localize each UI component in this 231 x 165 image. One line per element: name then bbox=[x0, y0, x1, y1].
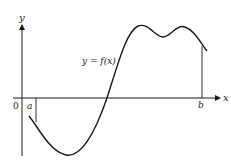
b-label: b bbox=[198, 100, 204, 110]
function-graph: y x 0 a b y = f(x) bbox=[0, 0, 231, 165]
x-axis-label: x bbox=[223, 92, 229, 103]
curve-label: y = f(x) bbox=[81, 56, 116, 66]
y-axis-label: y bbox=[18, 12, 25, 23]
function-curve bbox=[29, 25, 207, 155]
origin-label: 0 bbox=[13, 101, 19, 111]
a-label: a bbox=[27, 101, 32, 111]
